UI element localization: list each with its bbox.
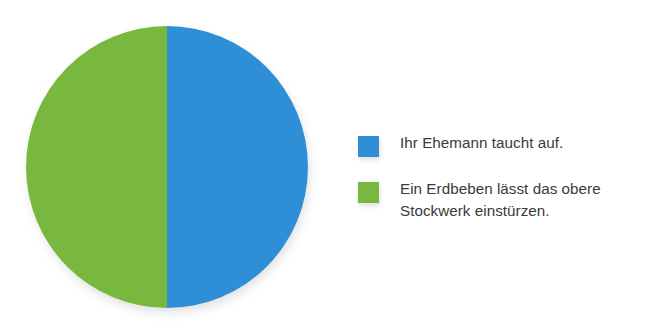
legend-swatch-green (358, 182, 379, 203)
legend-swatch-blue-box (358, 136, 379, 157)
pie-svg (26, 26, 308, 308)
pie-chart-figure: Ihr Ehemann taucht auf. Ein Erdbeben läs… (0, 0, 659, 336)
pie-slice-blue[interactable] (167, 26, 308, 308)
legend-label-blue: Ihr Ehemann taucht auf. (400, 131, 563, 154)
chart-legend: Ihr Ehemann taucht auf. Ein Erdbeben läs… (358, 131, 648, 221)
legend-label-green: Ein Erdbeben lässt das obere Stockwerk e… (400, 177, 601, 221)
legend-item-blue[interactable]: Ihr Ehemann taucht auf. (358, 131, 648, 157)
pie-chart (26, 26, 308, 308)
legend-item-green[interactable]: Ein Erdbeben lässt das obere Stockwerk e… (358, 177, 648, 221)
pie-slice-green[interactable] (26, 26, 167, 308)
legend-swatch-blue (358, 136, 379, 157)
legend-swatch-green-box (358, 182, 379, 203)
